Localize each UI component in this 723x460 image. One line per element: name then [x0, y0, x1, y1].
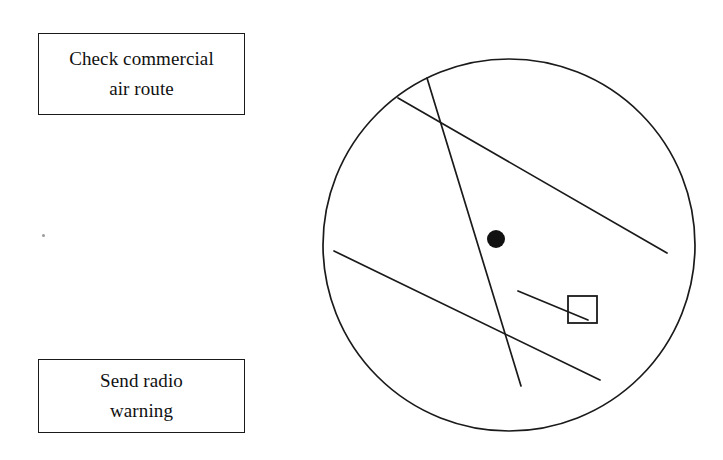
- process-box-send-radio-warning[interactable]: Send radio warning: [38, 359, 245, 433]
- radar-scope-diagram: [300, 20, 723, 460]
- process-box-line-2: air route: [109, 74, 174, 104]
- upper-diagonal-track-line: [398, 98, 667, 253]
- steep-track-line: [427, 78, 521, 386]
- scan-speck-icon: [42, 234, 45, 237]
- diagram-canvas: Check commercial air route Send radio wa…: [0, 0, 723, 460]
- process-box-line-1: Check commercial: [69, 44, 214, 74]
- process-box-check-commercial-air-route[interactable]: Check commercial air route: [38, 33, 245, 115]
- process-box-line-1: Send radio: [100, 366, 183, 396]
- process-box-line-2: warning: [110, 396, 173, 426]
- radar-scope-circle: [323, 59, 695, 431]
- lower-diagonal-track-line: [334, 251, 600, 380]
- target-square-icon[interactable]: [568, 296, 597, 323]
- target-dot-icon[interactable]: [487, 230, 505, 248]
